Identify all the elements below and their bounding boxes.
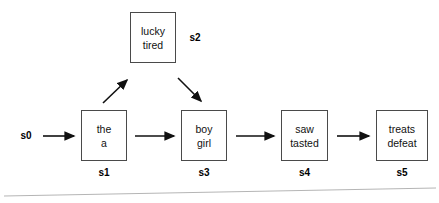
state-s1-word-0: the [97, 122, 112, 136]
state-box-s4[interactable]: saw tasted [281, 110, 328, 161]
state-s2-word-0: lucky [141, 24, 165, 38]
state-s1-word-1: a [101, 136, 107, 150]
state-s5-word-0: treats [389, 122, 415, 136]
state-s2-word-1: tired [143, 38, 163, 52]
state-box-s5[interactable]: treats defeat [376, 110, 428, 161]
state-box-s3[interactable]: boy girl [181, 110, 227, 161]
start-state-label: s0 [14, 130, 38, 141]
state-box-s1[interactable]: the a [81, 110, 127, 161]
state-label-s1: s1 [81, 167, 127, 178]
state-label-s3: s3 [181, 167, 227, 178]
state-box-s2[interactable]: lucky tired [130, 12, 176, 63]
state-label-s2: s2 [183, 32, 207, 43]
state-s3-word-1: girl [197, 136, 211, 150]
diagram-canvas: s0 the a s1 lucky tired s2 boy girl s3 s… [0, 0, 439, 203]
state-label-s5: s5 [376, 167, 428, 178]
state-s4-word-0: saw [295, 122, 314, 136]
state-s3-word-0: boy [196, 122, 213, 136]
state-label-s4: s4 [281, 167, 328, 178]
state-s5-word-1: defeat [387, 136, 416, 150]
state-s4-word-1: tasted [290, 136, 319, 150]
